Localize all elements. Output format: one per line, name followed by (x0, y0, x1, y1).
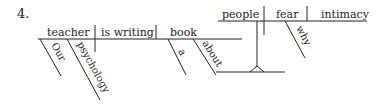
verb-word: is writing (101, 26, 154, 39)
sentence-diagram: 4. teacher is writing book Our psycholog… (0, 0, 384, 106)
modifier-line-a (168, 39, 186, 75)
clause-object-word: intimacy (321, 8, 370, 21)
modifier-psychology: psychology (75, 40, 112, 95)
item-number: 4. (17, 6, 29, 21)
modifier-about: about (200, 38, 225, 68)
modifier-a: a (176, 47, 189, 57)
clause-subject-word: people (222, 8, 259, 21)
object-word: book (170, 26, 197, 39)
clause-verb-word: fear (276, 8, 299, 21)
subject-word: teacher (47, 26, 90, 39)
